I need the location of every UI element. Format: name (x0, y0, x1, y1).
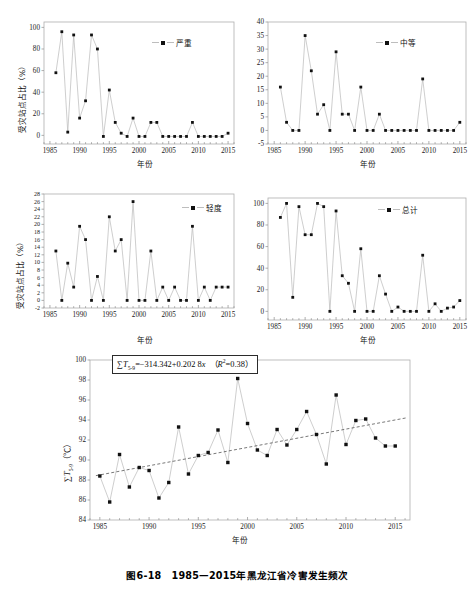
x-tick-label: 2015 (388, 523, 403, 531)
data-point-marker (397, 129, 400, 132)
legend-marker-icon (385, 41, 389, 45)
legend-label: 总计 (402, 204, 418, 215)
data-point-marker (335, 50, 338, 53)
y-tick-label: 80 (33, 45, 41, 53)
x-tick-label: 2010 (422, 323, 437, 331)
data-point-marker (390, 129, 393, 132)
y-tick-label: 100 (253, 200, 264, 208)
data-point-marker (179, 135, 182, 138)
data-point-marker (384, 444, 387, 447)
figure-caption: 图6-18 1985—2015年黑龙江省冷害发生频次 (0, 568, 475, 582)
equation-text: ∑T5-9=−314.342+0.202 8x （R2=0.38） (117, 360, 253, 369)
data-point-marker (66, 131, 69, 134)
chart-panel-moderate: -505101520253035401985199019952000200520… (238, 6, 475, 176)
data-point-marker (60, 30, 63, 33)
y-tick-label: 25 (257, 59, 265, 67)
data-point-marker (98, 474, 101, 477)
data-point-marker (353, 129, 356, 132)
y-tick-label: 5 (260, 113, 264, 121)
data-point-marker (279, 216, 282, 219)
data-point-marker (54, 250, 57, 253)
y-tick-label: 22 (34, 214, 40, 220)
data-point-marker (285, 202, 288, 205)
data-point-marker (421, 254, 424, 257)
data-point-marker (114, 250, 117, 253)
chart-total-legend: 总计 (378, 204, 418, 215)
y-tick-label: 0 (260, 127, 264, 135)
legend-line-icon (378, 209, 385, 210)
chart-panel-sum-temp: ∑T5-9（℃） 8486889092949698100198519901995… (50, 352, 430, 552)
x-tick-label: 2005 (162, 147, 177, 155)
y-tick-label: 20 (257, 286, 265, 294)
data-point-marker (364, 417, 367, 420)
data-point-marker (421, 78, 424, 81)
data-point-marker (434, 129, 437, 132)
chart-total-xlabel: 年份 (278, 334, 458, 345)
data-point-marker (334, 393, 337, 396)
y-tick-label: 35 (257, 32, 265, 40)
data-point-marker (295, 428, 298, 431)
data-point-marker (114, 121, 117, 124)
figure-page: 受灾站点占比（%） 020406080100198519901995200020… (0, 0, 475, 592)
y-tick-label: 84 (79, 516, 87, 524)
y-tick-label: 4 (37, 282, 40, 288)
y-tick-label: 15 (257, 86, 265, 94)
series-line (56, 32, 228, 137)
data-point-marker (316, 202, 319, 205)
data-point-marker (397, 306, 400, 309)
data-point-marker (374, 436, 377, 439)
data-point-marker (285, 443, 288, 446)
y-tick-label: 24 (34, 206, 40, 212)
data-point-marker (157, 496, 160, 499)
x-tick-label: 2005 (391, 147, 406, 155)
chart-mild-ylabel: 受灾站点占比（%） (14, 238, 25, 309)
chart-panel-severe: 受灾站点占比（%） 020406080100198519901995200020… (0, 6, 240, 176)
y-tick-label: 20 (33, 110, 41, 118)
chart-sum-temp-ylabel: ∑T5-9（℃） (60, 440, 74, 482)
y-tick-label: 0 (36, 132, 40, 140)
data-point-marker (138, 466, 141, 469)
x-tick-label: 1985 (93, 523, 108, 531)
y-tick-label: 40 (257, 18, 265, 26)
legend-label: 轻度 (206, 202, 222, 213)
data-point-marker (415, 129, 418, 132)
y-tick-label: 20 (257, 73, 265, 81)
data-point-marker (126, 299, 129, 302)
y-tick-label: 88 (79, 476, 87, 484)
data-point-marker (256, 448, 259, 451)
y-tick-label: 94 (79, 416, 87, 424)
x-tick-label: 2015 (453, 323, 468, 331)
y-tick-label: 26 (34, 199, 40, 205)
data-point-marker (452, 306, 455, 309)
x-tick-label: 2000 (360, 147, 375, 155)
data-point-marker (203, 286, 206, 289)
y-tick-label: 86 (79, 496, 87, 504)
chart-severe-legend: 严重 (152, 37, 192, 48)
data-point-marker (120, 238, 123, 241)
y-tick-label: 10 (257, 100, 265, 108)
data-point-marker (403, 129, 406, 132)
x-tick-label: 2015 (221, 147, 236, 155)
data-point-marker (167, 299, 170, 302)
data-point-marker (84, 238, 87, 241)
data-point-marker (378, 274, 381, 277)
x-tick-label: 1990 (72, 311, 87, 319)
data-point-marker (394, 444, 397, 447)
y-tick-label: 6 (37, 275, 40, 281)
data-point-marker (305, 410, 308, 413)
data-point-marker (191, 225, 194, 228)
x-tick-label: 2005 (162, 311, 177, 319)
data-point-marker (138, 135, 141, 138)
data-point-marker (390, 310, 393, 313)
legend-marker-icon (191, 206, 195, 210)
data-point-marker (215, 135, 218, 138)
data-point-marker (384, 129, 387, 132)
data-point-marker (155, 299, 158, 302)
x-tick-label: 1995 (329, 147, 344, 155)
data-point-marker (440, 310, 443, 313)
data-point-marker (96, 48, 99, 51)
x-tick-label: 2005 (290, 523, 305, 531)
data-point-marker (221, 286, 224, 289)
y-tick-label: 40 (257, 265, 265, 273)
y-tick-label: 80 (257, 221, 265, 229)
